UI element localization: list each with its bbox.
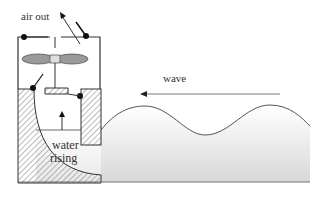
fan-blade-left	[22, 54, 54, 64]
label-air-out: air out	[21, 10, 49, 22]
sea-water	[101, 105, 310, 182]
fan-blade-right	[56, 54, 88, 64]
flap-top-right	[76, 22, 86, 36]
water-rising-arrowhead	[59, 111, 65, 117]
flap-mid-left	[33, 74, 43, 88]
fan-hub	[50, 55, 60, 63]
hinge-top-left	[21, 34, 27, 40]
label-water: water	[52, 138, 79, 152]
owc-diagram: air out water rising wave	[0, 0, 324, 198]
right-pillar	[81, 89, 101, 145]
float-plate	[45, 88, 68, 94]
wave-direction-arrowhead	[140, 91, 147, 97]
label-rising: rising	[50, 151, 77, 165]
label-wave: wave	[163, 72, 186, 84]
air-out-arrow	[62, 16, 80, 44]
